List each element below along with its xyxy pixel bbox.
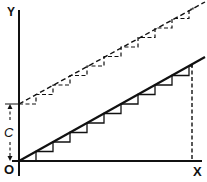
- x-axis-label: X: [193, 165, 202, 178]
- dashed-line: [19, 2, 205, 104]
- solid-line: [19, 57, 205, 161]
- y-axis-label: Y: [7, 6, 15, 18]
- origin-label: O: [4, 163, 14, 176]
- intercept-label: C: [4, 126, 13, 139]
- diagram-canvas: [0, 0, 207, 182]
